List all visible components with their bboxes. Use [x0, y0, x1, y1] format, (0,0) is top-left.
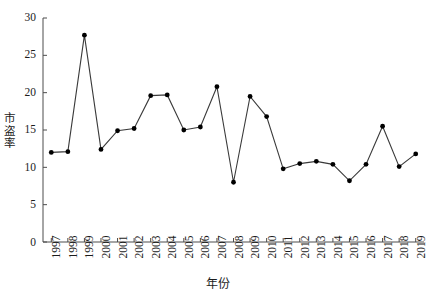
x-tick-label-2016: 2016 [359, 247, 373, 289]
x-tick-label-2012: 2012 [293, 247, 307, 289]
data-point-2005 [181, 128, 186, 133]
x-tick-label-2018: 2018 [392, 247, 406, 289]
data-point-2014 [330, 162, 335, 167]
x-tick-label-2005: 2005 [177, 247, 191, 289]
data-point-2016 [364, 162, 369, 167]
x-tick-label-2014: 2014 [326, 247, 340, 289]
data-point-2009 [248, 94, 253, 99]
data-point-2000 [99, 147, 104, 152]
x-tick-label-2011: 2011 [276, 247, 290, 289]
x-tick-label-2000: 2000 [94, 247, 108, 289]
x-tick-label-2017: 2017 [376, 247, 390, 289]
data-point-2001 [115, 128, 120, 133]
x-tick-label-2009: 2009 [243, 247, 257, 289]
data-point-2012 [297, 161, 302, 166]
x-tick-label-2003: 2003 [144, 247, 158, 289]
x-tick-label-1999: 1999 [77, 247, 91, 289]
x-tick-label-1997: 1997 [44, 247, 58, 289]
data-point-1997 [49, 150, 54, 155]
x-tick-label-2015: 2015 [342, 247, 356, 289]
data-point-2013 [314, 159, 319, 164]
x-tick-label-text: 2019 [416, 236, 428, 259]
data-point-2006 [198, 125, 203, 130]
data-point-2003 [148, 93, 153, 98]
axis-lines [43, 18, 424, 242]
x-tick-label-2004: 2004 [160, 247, 174, 289]
chart-figure: 30 25 20 15 10 5 0 市 盗 率 年份 199719981999… [0, 0, 436, 294]
x-tick-label-2002: 2002 [127, 247, 141, 289]
data-point-2008 [231, 180, 236, 185]
data-point-2010 [264, 114, 269, 119]
data-point-2004 [165, 93, 170, 98]
y-tick-marks [43, 18, 47, 242]
series-markers [49, 33, 418, 185]
data-point-2007 [215, 84, 220, 89]
data-point-1999 [82, 33, 87, 38]
data-point-2011 [281, 166, 286, 171]
data-point-2019 [413, 151, 418, 156]
data-point-2018 [397, 164, 402, 169]
x-tick-label-2010: 2010 [260, 247, 274, 289]
x-tick-label-2001: 2001 [111, 247, 125, 289]
data-point-2017 [380, 124, 385, 129]
x-tick-label-2006: 2006 [193, 247, 207, 289]
x-tick-label-1998: 1998 [61, 247, 75, 289]
x-tick-label-2019: 2019 [409, 247, 423, 289]
x-tick-label-2008: 2008 [227, 247, 241, 289]
x-tick-label-2013: 2013 [309, 247, 323, 289]
x-tick-label-2007: 2007 [210, 247, 224, 289]
data-point-2002 [132, 126, 137, 131]
data-point-1998 [65, 149, 70, 154]
series-line [51, 35, 415, 182]
data-point-2015 [347, 178, 352, 183]
